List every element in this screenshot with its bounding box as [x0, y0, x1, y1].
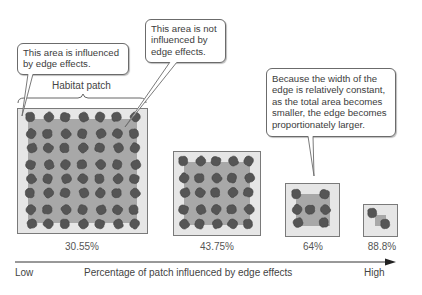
patch-percent-large: 30.55%	[52, 241, 112, 252]
patch-percent-small: 64%	[283, 241, 343, 252]
arrow-head-icon	[385, 259, 396, 266]
patch-percent-tiny: 88.8%	[352, 241, 412, 252]
pointer-interior	[125, 62, 177, 127]
organisms-small	[291, 189, 332, 229]
patch-percent-medium: 43.75%	[187, 241, 247, 252]
organisms-medium	[177, 154, 256, 230]
axis-high-label: High	[364, 267, 385, 278]
organisms-large	[24, 110, 142, 230]
axis-title: Percentage of patch influenced by edge e…	[84, 267, 292, 278]
axis-low-label: Low	[15, 267, 33, 278]
pointer-edge	[22, 74, 33, 116]
bracket	[18, 94, 146, 103]
organisms-tiny	[368, 208, 390, 228]
pointer-explanation	[308, 136, 314, 176]
